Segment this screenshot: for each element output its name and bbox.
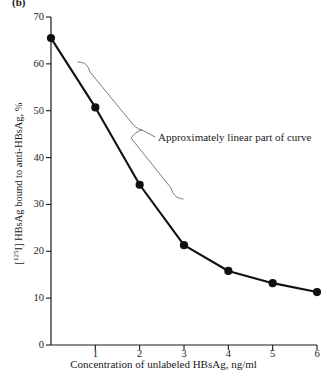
- data-point-markers: [47, 34, 321, 296]
- data-point: [47, 34, 55, 42]
- data-point: [136, 181, 144, 189]
- axis-lines: [51, 17, 317, 345]
- figure-panel: (b) [125I] HBsAg bound to anti-HBsAg, % …: [0, 0, 327, 380]
- plot-area: [0, 0, 327, 380]
- data-point: [224, 267, 232, 275]
- data-point: [91, 103, 99, 111]
- y-axis-ticks: [46, 17, 51, 345]
- data-point: [269, 279, 277, 287]
- data-series-line: [51, 38, 317, 292]
- data-point: [313, 288, 321, 296]
- annotation-label-linear-part: Approximately linear part of curve: [158, 131, 311, 144]
- brace-pointer: [142, 130, 155, 137]
- x-axis-title: Concentration of unlabeled HBsAg, ng/ml: [0, 358, 327, 371]
- data-point: [180, 241, 188, 249]
